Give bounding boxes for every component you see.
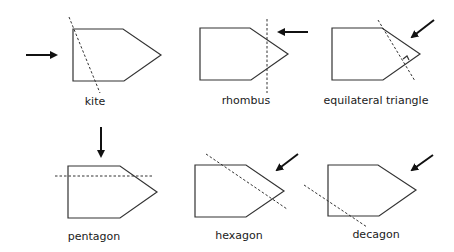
cut-line [378,20,415,81]
arrow-down-left-icon [277,154,298,170]
panel-label: pentagon [68,230,120,243]
arrow-down-left-icon [412,20,434,37]
panel-label: kite [85,95,106,108]
pentagon-shape [68,166,157,218]
arrow-down-left-icon [412,155,433,170]
panel-label: decagon [352,228,399,241]
cut-line [304,185,367,227]
cut-line [206,154,287,209]
panel-label: hexagon [215,229,263,242]
panel-decagon: decagon [304,155,433,241]
panel-label: rhombus [222,94,271,107]
panel-pentagon: pentagon [55,127,157,243]
panel-label: equilateral triangle [324,94,429,107]
pentagon-shape [195,165,284,217]
pentagon-shape [332,28,420,80]
pentagon-shape [73,29,161,81]
panel-hexagon: hexagon [195,154,298,242]
pentagon-shape [328,165,416,216]
panel-rhombus: rhombus [200,19,308,107]
panel-equilateral-triangle: equilateral triangle [324,20,434,107]
right-angle-marker [403,56,409,60]
panel-kite: kite [26,17,161,108]
pentagon-shape [200,28,288,80]
diagram-canvas: kite rhombus equilateral triangle pentag… [0,0,454,252]
